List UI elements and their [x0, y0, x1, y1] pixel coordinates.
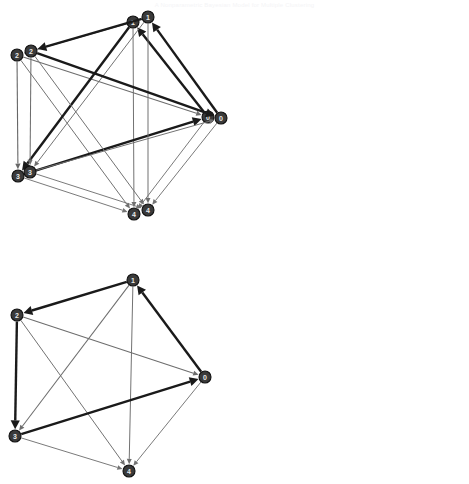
- node-circle-2: [25, 45, 37, 57]
- edge-2-to-3: [15, 322, 17, 421]
- node-circle-3: [12, 170, 24, 182]
- graph-node-4[interactable]: 4: [142, 204, 154, 216]
- node-circle-4: [123, 465, 135, 477]
- graph-node-0[interactable]: 0: [215, 112, 227, 124]
- node-circle-4: [128, 208, 140, 220]
- graph-node-3[interactable]: 3: [24, 166, 36, 178]
- node-circle-0: [199, 371, 211, 383]
- arrowhead-3-to-4: [122, 208, 128, 213]
- arrowhead-2-to-4: [120, 460, 125, 466]
- arrowhead-3-to-0: [189, 377, 199, 386]
- graph-svg-3: 01234: [0, 266, 232, 484]
- node-circle-3: [24, 166, 36, 178]
- edge-2-to-0: [23, 57, 196, 113]
- graph-node-0[interactable]: 0: [199, 371, 211, 383]
- arrowhead-2-to-3: [15, 164, 20, 170]
- graph-node-4[interactable]: 4: [128, 208, 140, 220]
- node-layer: 01234: [9, 274, 211, 477]
- graph-panel-1: 01234: [0, 8, 232, 240]
- node-circle-1: [142, 11, 154, 23]
- node-circle-2: [11, 309, 23, 321]
- edge-3-to-4: [24, 178, 122, 210]
- edge-3-to-4: [21, 438, 117, 468]
- graph-panel-3: 01234: [0, 266, 232, 484]
- arrowhead-1-to-4: [127, 459, 132, 464]
- graph-node-2[interactable]: 2: [25, 45, 37, 57]
- graph-node-3[interactable]: 3: [12, 170, 24, 182]
- node-circle-3: [9, 430, 21, 442]
- arrowhead-1-to-3: [19, 425, 24, 431]
- edge-2-to-4: [21, 60, 127, 204]
- graph-svg-2: 01234: [240, 6, 469, 238]
- arrowhead-2-to-0: [193, 371, 199, 376]
- edge-1-to-4: [129, 287, 133, 459]
- node-circle-2: [11, 49, 23, 61]
- edge-2-to-4: [21, 320, 122, 461]
- edge-layer: [15, 24, 204, 213]
- graph-node-2[interactable]: 2: [11, 49, 23, 61]
- graph-node-1[interactable]: 1: [127, 274, 139, 286]
- graph-node-1[interactable]: 1: [142, 11, 154, 23]
- graph-node-3[interactable]: 3: [9, 430, 21, 442]
- graph-panel-2: 01234: [240, 6, 469, 238]
- node-circle-0: [215, 112, 227, 124]
- graph-svg-1: 01234: [0, 8, 232, 240]
- edge-1-to-4: [133, 29, 134, 202]
- graph-node-4[interactable]: 4: [123, 465, 135, 477]
- edge-0-to-4: [137, 382, 201, 462]
- edge-layer: [11, 282, 201, 470]
- arrowhead-1-to-2: [24, 306, 34, 315]
- edge-2-to-3: [17, 62, 18, 164]
- node-circle-4: [142, 204, 154, 216]
- arrowhead-3-to-4: [117, 465, 123, 470]
- arrowhead-2-to-3: [11, 420, 20, 429]
- graph-node-2[interactable]: 2: [11, 309, 23, 321]
- edge-0-to-1: [142, 293, 201, 372]
- node-circle-1: [127, 274, 139, 286]
